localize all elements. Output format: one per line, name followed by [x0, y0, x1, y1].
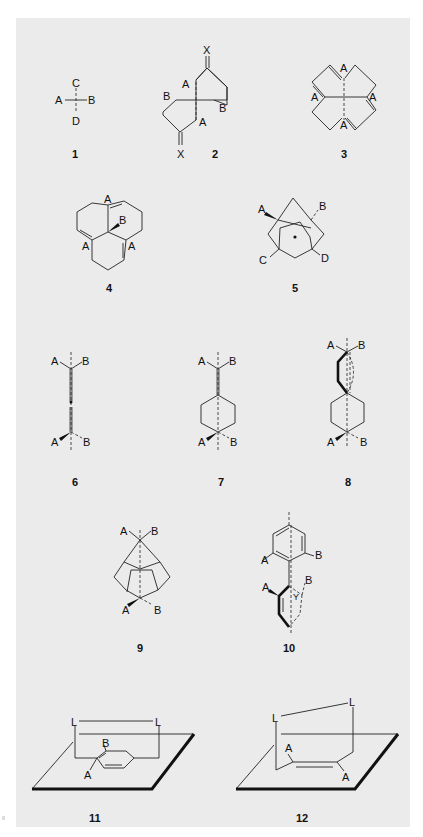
- atom-label-a-top: A: [340, 62, 348, 74]
- structure-number: 1: [72, 148, 78, 160]
- atom-label-a-top: A: [51, 355, 59, 367]
- structure-number: 10: [283, 642, 295, 654]
- structure-10: A B A Y B 10: [261, 512, 322, 654]
- atom-label-b: B: [102, 737, 109, 749]
- atom-label-a-top: A: [327, 339, 335, 351]
- structure-6: A B A B 6: [51, 352, 90, 488]
- atom-label-b-top: B: [358, 339, 365, 351]
- atom-label-b-top: B: [229, 355, 236, 367]
- atom-label-a-lower: A: [262, 581, 270, 593]
- atom-label-b-top: B: [82, 355, 89, 367]
- structure-1: C A B D 1: [55, 77, 95, 160]
- atom-label-a-top: A: [120, 525, 128, 537]
- atom-label-b-bottom: B: [83, 436, 90, 448]
- atom-label-a-ring: A: [261, 554, 269, 566]
- structure-number: 4: [106, 282, 113, 294]
- atom-label-a-right: A: [342, 771, 350, 783]
- structure-number: 7: [218, 476, 224, 488]
- atom-label-x-top: X: [203, 44, 211, 56]
- atom-label-a-top: A: [198, 355, 206, 367]
- structure-8: A B A B 8: [327, 338, 367, 488]
- atom-label-a-bottom: A: [340, 119, 348, 131]
- atom-label-c: C: [72, 77, 80, 89]
- atom-label-a: A: [258, 203, 266, 215]
- atom-label-a-bottom: A: [122, 604, 130, 616]
- atom-label-a: A: [84, 769, 92, 781]
- structure-4: A B A A 4: [77, 193, 142, 294]
- structure-number: 11: [89, 812, 101, 824]
- structure-number: 6: [72, 476, 78, 488]
- atom-label-b-bottom: B: [360, 436, 367, 448]
- atom-label-y: Y: [293, 592, 299, 602]
- chemical-structures-figure: C A B D 1 X A B B A X 2: [0, 0, 423, 837]
- structure-number: 2: [212, 148, 218, 160]
- atom-label-b-left: B: [163, 90, 170, 102]
- atom-label-a-bottom: A: [51, 436, 59, 448]
- atom-label-b-lower: B: [305, 574, 312, 586]
- structure-9: A B A B 9: [114, 525, 170, 654]
- structure-11: L L B A 11: [32, 716, 194, 824]
- atom-label-b: B: [119, 214, 126, 226]
- structure-number: 9: [137, 642, 143, 654]
- atom-label-x-bottom: X: [177, 148, 185, 160]
- structure-7: A B A B 7: [198, 352, 237, 488]
- atom-label-a-upper: A: [182, 78, 190, 90]
- atom-label-d: D: [321, 252, 329, 264]
- structure-number: 8: [345, 476, 351, 488]
- atom-label-a-right: A: [369, 91, 377, 103]
- atom-label-b-top: B: [151, 525, 158, 537]
- atom-label-b-ring: B: [315, 549, 322, 561]
- atom-label-b-bottom: B: [230, 436, 237, 448]
- atom-label-d: D: [72, 115, 80, 127]
- atom-label-l-left: L: [71, 716, 77, 728]
- atom-label-l-right: L: [349, 696, 355, 708]
- atom-label-a-lower: A: [199, 116, 207, 128]
- atom-label-a: A: [55, 94, 63, 106]
- structure-number: 12: [296, 812, 308, 824]
- atom-label-a-right: A: [128, 240, 136, 252]
- structure-3: A A A A 3: [311, 62, 377, 160]
- atom-label-l-left: L: [272, 712, 278, 724]
- atom-label-a-left: A: [285, 742, 293, 754]
- atom-label-b: B: [88, 94, 95, 106]
- atom-label-b-bottom: B: [154, 604, 161, 616]
- atom-label-a-bottom: A: [327, 436, 335, 448]
- atom-label-l-right: L: [155, 716, 161, 728]
- structure-number: 5: [292, 282, 298, 294]
- atom-label-c: C: [259, 254, 267, 266]
- atom-label-b: B: [319, 200, 326, 212]
- atom-label-b-right: B: [219, 102, 226, 114]
- structure-2: X A B B A X 2: [163, 44, 227, 160]
- atom-label-a-top: A: [104, 193, 112, 205]
- structure-number: 3: [341, 148, 347, 160]
- atom-label-a-bottom: A: [198, 436, 206, 448]
- atom-label-a-left: A: [82, 240, 90, 252]
- atom-label-a-left: A: [311, 91, 319, 103]
- structure-5: A B C D 5: [258, 198, 329, 294]
- structure-12: L L A A 12: [236, 696, 398, 824]
